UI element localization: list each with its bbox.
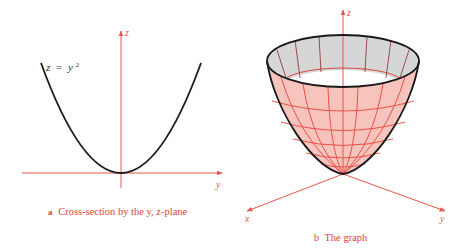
x-axis (247, 174, 343, 211)
y-axis-3d (343, 174, 445, 211)
caption-a: a Cross-section by the y, z-plane (48, 206, 188, 217)
x-axis-label: x (244, 213, 250, 224)
y-axis-label: y (215, 179, 221, 190)
equation-label: z = y 2 (45, 61, 80, 73)
z-axis-3d-label: z (346, 7, 351, 18)
z-axis-label: z (124, 27, 129, 38)
panel-b-graph: x y (244, 7, 445, 243)
y-axis-3d-label: y (439, 213, 445, 224)
panel-a-cross-section: z y z = y 2 a Cross-section by the y, z-… (22, 27, 222, 217)
figure-canvas: z y z = y 2 a Cross-section by the y, z-… (0, 0, 464, 251)
caption-b: b The graph (314, 232, 368, 243)
